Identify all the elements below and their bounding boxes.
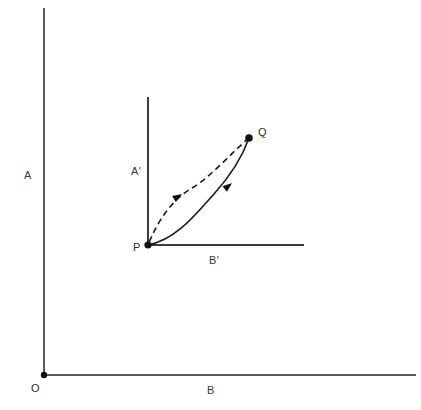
origin-point-dot (41, 372, 47, 378)
outer-coordinate-system: O A B (24, 8, 416, 396)
state-point-q-label: Q (258, 126, 267, 138)
state-point-q-dot (245, 134, 253, 142)
state-point-p-label: P (133, 241, 141, 253)
outer-x-axis-label: B (207, 384, 215, 396)
inner-coordinate-system: A' B' (131, 97, 304, 266)
outer-y-axis-label: A (24, 169, 32, 181)
process-paths (148, 138, 249, 245)
inner-y-axis-label: A' (131, 165, 141, 177)
return-path-arrowhead (172, 191, 184, 202)
return-path-dashed (148, 138, 249, 245)
origin-label: O (31, 382, 40, 394)
forward-path-solid (148, 138, 249, 245)
state-point-p-dot (144, 241, 151, 248)
figure-root: O A B A' B' P Q (0, 0, 421, 410)
inner-x-axis-label: B' (209, 254, 219, 266)
cycle-diagram-svg: O A B A' B' P Q (0, 0, 421, 410)
